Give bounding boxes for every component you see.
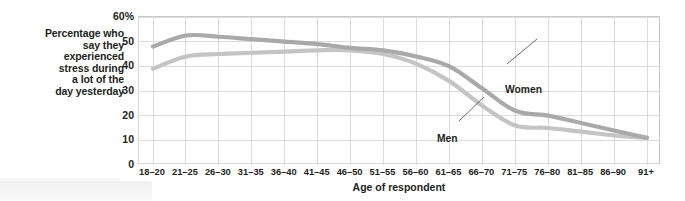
- series-lines: [139, 17, 661, 165]
- x-tick-label: 51–55: [370, 167, 396, 177]
- x-tick-label: 61–65: [435, 167, 461, 177]
- x-tick-label: 71–75: [501, 167, 527, 177]
- y-tick-label: 30: [100, 84, 134, 96]
- x-tick-label: 81–85: [567, 167, 593, 177]
- x-tick-label: 21–25: [172, 167, 198, 177]
- series-label-men: Men: [437, 133, 458, 144]
- series-path-women: [153, 35, 647, 138]
- scan-artifact-band: [0, 181, 152, 201]
- x-tick-label: 56–60: [403, 167, 429, 177]
- y-tick-label: 0: [100, 158, 134, 170]
- x-tick-label: 26–30: [205, 167, 231, 177]
- x-tick-label: 86–90: [600, 167, 626, 177]
- x-axis-title: Age of respondent: [138, 181, 660, 193]
- plot-area: [138, 16, 660, 164]
- x-axis-ticks: 18–2021–2526–3031–3536–4041–4546–5051–55…: [138, 167, 660, 181]
- x-tick-label: 18–20: [139, 167, 165, 177]
- x-tick-label: 31–35: [238, 167, 264, 177]
- x-tick-label: 36–40: [271, 167, 297, 177]
- y-tick-label: 60%: [100, 10, 134, 22]
- series-label-women: Women: [505, 84, 542, 95]
- y-axis-ticks: 60%50403020100: [96, 16, 134, 164]
- x-tick-label: 76–80: [534, 167, 560, 177]
- x-tick-label: 91+: [638, 167, 654, 177]
- y-tick-label: 40: [100, 59, 134, 71]
- stress-by-age-line-chart: Percentage who say they experienced stre…: [0, 0, 685, 201]
- y-tick-label: 50: [100, 35, 134, 47]
- y-tick-label: 10: [100, 133, 134, 145]
- series-path-men: [153, 50, 647, 138]
- leader-line-men: [459, 97, 484, 121]
- x-tick-label: 41–45: [304, 167, 330, 177]
- x-tick-label: 46–50: [337, 167, 363, 177]
- x-tick-label: 66–70: [468, 167, 494, 177]
- y-tick-label: 20: [100, 109, 134, 121]
- leader-line-women: [507, 39, 537, 64]
